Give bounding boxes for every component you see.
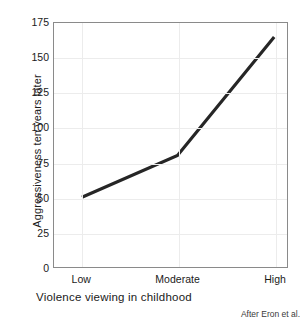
data-series-svg <box>54 23 287 267</box>
x-axis-tick-label: High <box>264 273 286 285</box>
line-chart-figure: Aggressiveness ten years later 025507510… <box>0 0 306 324</box>
y-axis-tick-label: 175 <box>0 16 49 28</box>
plot-area <box>53 22 288 268</box>
horizontal-gridline <box>54 234 287 235</box>
horizontal-gridline <box>54 164 287 165</box>
x-axis-tick-label: Moderate <box>155 273 199 285</box>
y-axis-tick-label: 0 <box>0 262 49 274</box>
y-axis-tick-label: 125 <box>0 86 49 98</box>
y-axis-tick-label: 100 <box>0 121 49 133</box>
vertical-gridline <box>82 23 83 267</box>
y-axis-tick-label: 150 <box>0 51 49 63</box>
y-axis-tick-label: 25 <box>0 227 49 239</box>
horizontal-gridline <box>54 58 287 59</box>
x-axis-tick-label: Low <box>72 273 91 285</box>
horizontal-gridline <box>54 128 287 129</box>
horizontal-gridline <box>54 93 287 94</box>
horizontal-gridline <box>54 199 287 200</box>
y-axis-tick-label-group: 0255075100125150175 <box>0 0 49 324</box>
y-axis-tick-label: 50 <box>0 192 49 204</box>
source-attribution-note: After Eron et al. <box>241 309 300 319</box>
vertical-gridline <box>179 23 180 267</box>
y-axis-tick-label: 75 <box>0 157 49 169</box>
x-axis-title: Violence viewing in childhood <box>36 291 192 303</box>
x-axis-tick-label-group: LowModerateHigh <box>53 273 288 289</box>
vertical-gridline <box>276 23 277 267</box>
